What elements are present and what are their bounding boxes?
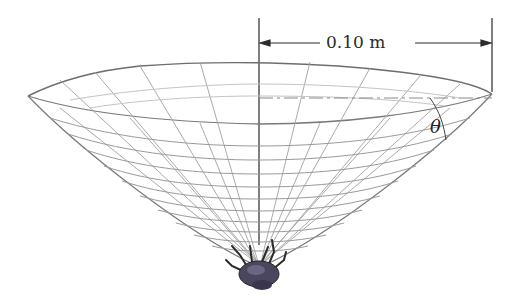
conical-web-diagram: [0, 0, 519, 302]
spider-icon: [226, 240, 286, 290]
web-rim: [28, 63, 492, 96]
dimension-label: 0.10 m: [322, 32, 389, 52]
angle-theta-label: θ: [430, 116, 441, 137]
dimension-arrow: [259, 18, 492, 245]
web-cone: [28, 62, 492, 265]
